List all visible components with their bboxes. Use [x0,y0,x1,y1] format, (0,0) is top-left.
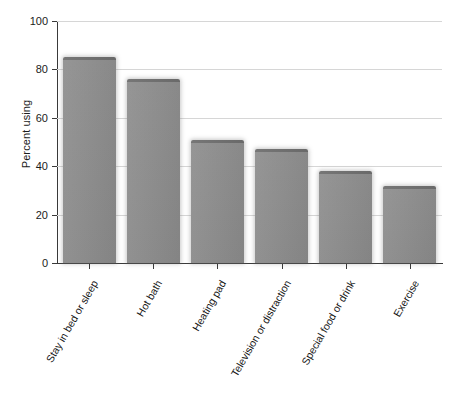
x-tick-mark [410,264,411,269]
y-tick-mark [52,166,57,167]
y-tick-label: 60 [36,112,48,124]
y-tick-mark [52,118,57,119]
bar [127,79,180,263]
x-axis-category-label: Exercise [341,278,421,395]
x-tick-mark [153,264,154,269]
x-tick-mark [89,264,90,269]
y-tick-mark [52,21,57,22]
x-tick-mark [282,264,283,269]
y-tick-mark [52,69,57,70]
gridline [57,21,442,22]
y-tick-label: 20 [36,209,48,221]
y-tick-label: 100 [30,15,48,27]
bar [319,171,372,263]
bar-chart: Percent using 020406080100 Stay in bed o… [0,0,462,395]
x-axis-category-label: Special food or drink [277,278,357,395]
x-axis-category-label: Hot bath [84,278,164,395]
bar [383,186,436,263]
y-tick-label: 80 [36,63,48,75]
x-tick-mark [346,264,347,269]
y-axis-title: Percent using [20,64,32,204]
plot-area: 020406080100 [57,21,442,263]
y-tick-mark [52,263,57,264]
x-axis-line [57,263,443,264]
y-tick-label: 40 [36,160,48,172]
y-tick-label: 0 [42,257,48,269]
x-tick-mark [217,264,218,269]
bar [63,57,116,263]
y-tick-mark [52,215,57,216]
x-axis-category-label: Stay in bed or sleep [20,278,100,395]
bar [191,140,244,263]
y-axis-line [57,21,58,264]
bar [255,149,308,263]
x-axis-category-label: Heating pad [148,278,228,395]
x-axis-category-label: Television or distraction [212,278,292,395]
